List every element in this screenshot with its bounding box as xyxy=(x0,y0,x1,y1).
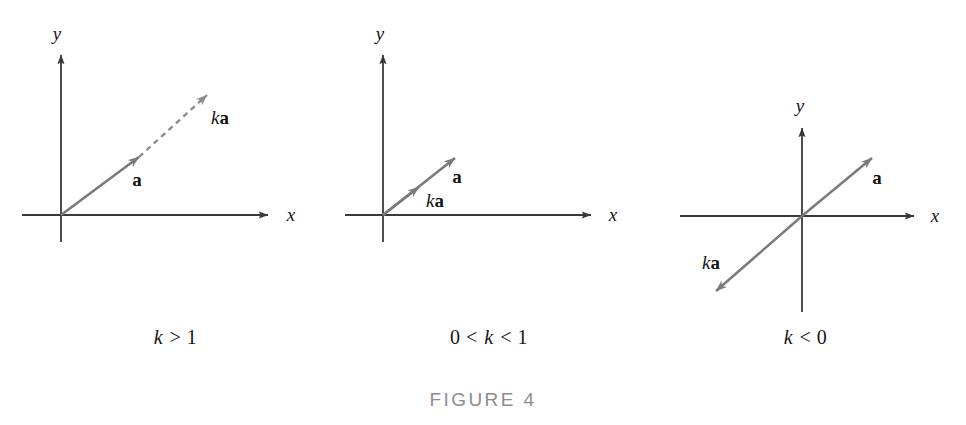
panel-1-x-axis-label: x xyxy=(287,205,295,224)
panel-2-vector-ka xyxy=(383,187,419,215)
panel-3-x-axis-label: x xyxy=(931,206,939,225)
panel-1-vector-ka-label: ka xyxy=(211,108,229,127)
panel-3-graphic xyxy=(680,128,914,312)
panel-3-vector-ka xyxy=(716,216,802,291)
panel-1-caption: k > 1 xyxy=(153,327,198,347)
panel-3-caption: k < 0 xyxy=(783,327,828,347)
figure-vector-graphics xyxy=(0,0,966,425)
panel-2-caption: 0 < k < 1 xyxy=(450,327,528,347)
figure-container: y x a ka k > 1 y x a ka 0 < k < 1 y x a … xyxy=(0,0,966,425)
panel-2-graphic xyxy=(345,55,591,242)
panel-1-vector-ka xyxy=(139,95,207,157)
panel-2-vector-ka-label: ka xyxy=(426,191,444,210)
panel-1-y-axis-label: y xyxy=(53,24,61,43)
panel-3-vector-a xyxy=(802,158,872,216)
panel-3-vector-a-label: a xyxy=(872,168,882,187)
panel-3-y-axis-label: y xyxy=(796,96,804,115)
panel-2-x-axis-label: x xyxy=(609,205,617,224)
panel-3-vector-ka-label: ka xyxy=(702,253,720,272)
panel-2-vector-a-label: a xyxy=(452,167,462,186)
figure-title: FIGURE 4 xyxy=(430,389,537,411)
panel-1-vector-a-label: a xyxy=(132,170,142,189)
panel-1-graphic xyxy=(22,55,268,242)
panel-1-vector-a xyxy=(61,157,139,215)
panel-2-y-axis-label: y xyxy=(376,24,384,43)
